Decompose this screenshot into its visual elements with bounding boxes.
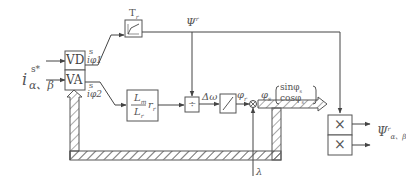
gain-num-main: L: [134, 92, 141, 103]
lambda-label: λ: [256, 167, 262, 177]
vd-output-label: iφ1: [87, 56, 102, 65]
input-sub: α、β: [29, 80, 54, 91]
phi-r-sub: r: [244, 95, 247, 102]
gain-num-sub: m: [141, 98, 147, 105]
matrix-sin-main: sinφ: [280, 82, 300, 92]
output-label: Ψrα、β: [377, 126, 406, 141]
divide-symbol: ÷: [188, 99, 196, 109]
va-output-label: iφ2: [87, 90, 102, 99]
input-label: i: [22, 72, 27, 88]
va-label: VA: [66, 74, 83, 86]
filter-label: Tr: [129, 8, 139, 20]
output-sup: r: [388, 125, 391, 132]
input-label-main: i: [22, 70, 27, 89]
gain-denominator: Lr: [134, 107, 144, 119]
multiplier-symbol-2: ×: [334, 137, 346, 151]
gain-factor: rr: [148, 100, 156, 112]
multiplier-symbol-1: ×: [334, 117, 346, 131]
angle-label: φs: [261, 90, 271, 102]
angle-main: φ: [261, 89, 268, 100]
angle-sub: s: [268, 95, 271, 102]
filter-label-sub: r: [136, 13, 139, 20]
gain-den-main: L: [134, 106, 141, 117]
flux-ref-label: Ψr: [186, 16, 199, 28]
filter-label-main: T: [129, 7, 136, 18]
filter-block: [125, 20, 142, 37]
phi-r-label: φr: [237, 90, 247, 102]
matrix-cos-main: cosφ: [280, 93, 301, 103]
matrix-cos: cosφs: [280, 94, 304, 105]
gain-numerator: Lm: [134, 93, 146, 105]
delta-omega-label: Δω: [202, 92, 217, 102]
feedback-bus-left: [67, 90, 82, 160]
flux-ref-sup: r: [196, 15, 199, 22]
gain-factor-sub: r: [153, 105, 156, 112]
gain-den-sub: r: [141, 112, 144, 119]
output-sub: α、β: [390, 133, 406, 141]
flux-ref-main: Ψ: [186, 16, 196, 29]
output-main: Ψ: [377, 125, 388, 139]
matrix-cos-sub: s: [301, 99, 304, 105]
phi-r-main: φ: [237, 89, 244, 100]
input-sup: s*: [31, 65, 40, 74]
vd-label: VD: [66, 54, 84, 66]
